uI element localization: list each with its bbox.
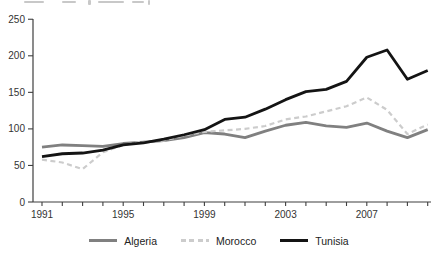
svg-text:250: 250 <box>8 14 25 25</box>
legend-item-tunisia: Tunisia <box>280 236 348 247</box>
legend-item-morocco: Morocco <box>181 236 256 247</box>
svg-text:200: 200 <box>8 50 25 61</box>
legend-label-algeria: Algeria <box>124 236 157 247</box>
svg-text:150: 150 <box>8 87 25 98</box>
svg-text:50: 50 <box>14 160 26 171</box>
legend-item-algeria: Algeria <box>89 236 157 247</box>
algeria-line-swatch <box>89 239 117 242</box>
svg-text:1995: 1995 <box>112 209 135 220</box>
tunisia-line-swatch <box>280 239 308 242</box>
svg-text:100: 100 <box>8 123 25 134</box>
legend: Algeria Morocco Tunisia <box>0 236 438 247</box>
svg-text:2003: 2003 <box>274 209 297 220</box>
legend-label-tunisia: Tunisia <box>315 236 348 247</box>
legend-label-morocco: Morocco <box>216 236 256 247</box>
svg-text:1999: 1999 <box>193 209 216 220</box>
morocco-line-swatch <box>181 239 209 242</box>
svg-text:0: 0 <box>19 197 25 208</box>
svg-text:2007: 2007 <box>356 209 379 220</box>
line-chart: 05010015020025019911995199920032007 <box>0 0 438 228</box>
svg-text:1991: 1991 <box>31 209 54 220</box>
chart-figure: 05010015020025019911995199920032007 Alge… <box>0 0 438 253</box>
